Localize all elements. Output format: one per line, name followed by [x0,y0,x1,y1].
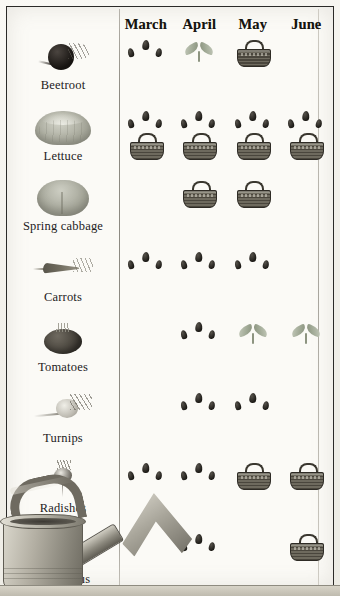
seedling-sprout-icon [184,40,214,66]
cell-icons [236,39,270,66]
harvest-basket-icon [236,133,270,159]
seed-icon [233,251,273,273]
seed-icon [179,110,219,132]
table-row: Spring cabbage [7,178,333,249]
cell-spring-cabbage-may [226,178,280,249]
month-cells [119,249,333,320]
month-cells [119,108,333,179]
seed-icon [233,392,273,414]
vegetable-image [33,249,93,289]
vegetable-name: Tomatoes [38,360,88,375]
tomato-illustration [42,323,84,355]
month-label: June [280,11,334,37]
cell-icons [179,533,219,555]
seedling-sprout-icon [238,322,268,348]
cell-tomatoes-may [226,319,280,390]
vegetable-image [32,531,94,571]
seed-icon [179,533,219,555]
month-header-march: March [119,11,173,37]
table-row: Radishes [7,460,333,531]
vegetable-name: Spring cabbage [23,219,103,234]
cell-spring-cabbage-april [173,178,227,249]
vegetable-name: Beetroot [41,78,86,93]
seed-icon [179,462,219,484]
cell-tomatoes-march [119,319,173,390]
cell-radishes-may [226,460,280,531]
cell-tomatoes-april [173,319,227,390]
month-header-june: June [280,11,334,37]
table-surface [0,585,340,596]
harvest-basket-icon [289,534,323,560]
vegetable-label-cell-carrots: Carrots [7,249,119,320]
vegetable-label-cell-tomatoes: Tomatoes [7,319,119,390]
cell-icons [236,180,270,207]
carrot-illustration [33,256,93,282]
seed-icon [179,392,219,414]
vegetable-label-cell-radishes: Radishes [7,460,119,531]
cell-icons [233,251,273,273]
vegetable-image [35,108,91,148]
cell-icons [179,462,219,484]
table-row: Turnips [7,390,333,461]
cell-tomatoes-june [280,319,334,390]
table-row: Beetroot [7,37,333,108]
spring-cabbage-illustration [37,180,89,216]
seed-icon [126,110,166,132]
cell-icons [238,321,268,348]
harvest-basket-icon [236,40,270,66]
turnip-illustration [34,394,92,426]
harvest-basket-icon [236,463,270,489]
month-cells [119,460,333,531]
cell-radishes-april [173,460,227,531]
cell-icons [179,321,219,343]
seed-icon [286,110,326,132]
cell-beetroot-june [280,37,334,108]
month-cells [119,390,333,461]
seedling-sprout-icon [291,322,321,348]
month-header-row: MarchAprilMayJune [119,11,333,37]
vegetable-name: Lettuce [44,149,83,164]
cell-icons [233,110,273,159]
cell-lettuce-march [119,108,173,179]
cell-lettuce-may [226,108,280,179]
cell-turnips-march [119,390,173,461]
cell-icons [179,110,219,159]
month-cells [119,37,333,108]
cell-carrots-march [119,249,173,320]
vegetable-rows: BeetrootLettuceSpring cabbageCarrotsToma… [7,37,333,587]
vegetable-image [42,319,84,359]
harvest-basket-icon [236,181,270,207]
cell-spring-cabbage-june [280,178,334,249]
cell-icons [289,462,323,489]
month-cells [119,319,333,390]
cell-icons [126,110,166,159]
cell-icons [179,392,219,414]
cell-radishes-june [280,460,334,531]
cell-carrots-may [226,249,280,320]
cell-icons [182,180,216,207]
cell-beetroot-april [173,37,227,108]
cell-icons [126,39,166,61]
vegetable-label-cell-lettuce: Lettuce [7,108,119,179]
harvest-basket-icon [129,133,163,159]
seed-icon [126,462,166,484]
vegetable-image [46,460,80,500]
cell-icons [291,321,321,348]
table-row: Carrots [7,249,333,320]
cell-turnips-june [280,390,334,461]
vegetable-name: Carrots [44,290,82,305]
radish-illustration [46,460,80,500]
month-label: March [119,11,173,37]
cell-carrots-june [280,249,334,320]
seed-icon [126,39,166,61]
seed-icon [179,251,219,273]
asparagus-illustration [32,543,94,559]
table-row: Tomatoes [7,319,333,390]
cell-icons [184,39,214,66]
month-label: April [173,11,227,37]
month-cells [119,178,333,249]
page-background: MarchAprilMayJune BeetrootLettuceSpring … [0,0,340,596]
cell-turnips-april [173,390,227,461]
calendar-inner: MarchAprilMayJune BeetrootLettuceSpring … [7,7,333,587]
cell-icons [286,110,326,159]
